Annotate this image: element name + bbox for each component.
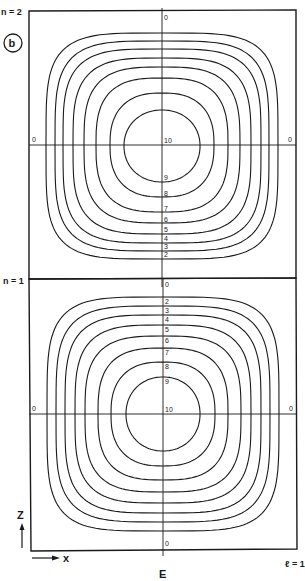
mode-label-n1: n = 1	[3, 276, 24, 286]
lower-top-zero-label: 0	[165, 281, 169, 288]
x-arrow-head-icon	[52, 556, 60, 561]
contour-label-level-3: 3	[165, 307, 169, 314]
lower-left-zero-label: 0	[32, 405, 36, 412]
upper-right-zero-label: 0	[288, 136, 292, 143]
upper-cell-contour-labels: 98765432	[164, 174, 168, 258]
upper-center-label: 10	[164, 137, 172, 144]
contour-label-level-2: 2	[164, 251, 168, 258]
contour-label-level-2: 2	[165, 298, 169, 305]
upper-left-zero-label: 0	[32, 136, 36, 143]
z-arrow-head-icon	[20, 523, 25, 530]
lower-cell-contour-labels: 98765432	[165, 298, 169, 385]
panel-label: b	[4, 34, 22, 52]
lower-center-label: 10	[165, 406, 173, 413]
x-axis-label: x	[63, 552, 70, 564]
contour-label-level-5: 5	[164, 226, 168, 233]
contour-label-level-8: 8	[164, 190, 168, 197]
contour-label-level-5: 5	[165, 326, 169, 333]
contour-label-level-9: 9	[165, 378, 169, 385]
contour-label-level-7: 7	[164, 205, 168, 212]
contour-label-level-8: 8	[165, 363, 169, 370]
mode-label-n2: n = 2	[1, 7, 22, 17]
contour-label-level-4: 4	[165, 316, 169, 323]
contour-diagram: 98765432 98765432 0 0 0 10 0 0 0 10 0 n …	[0, 0, 305, 581]
contour-label-level-4: 4	[164, 235, 168, 242]
lower-bottom-zero-label: 0	[165, 540, 169, 547]
upper-cell-frame	[29, 10, 296, 279]
contour-label-level-7: 7	[165, 349, 169, 356]
contour-label-level-9: 9	[164, 174, 168, 181]
axis-indicator: Z x	[17, 509, 70, 564]
upper-top-zero-label: 0	[164, 14, 168, 21]
contour-label-level-6: 6	[164, 216, 168, 223]
z-axis-label: Z	[17, 509, 24, 521]
panel-label-text: b	[9, 37, 16, 49]
contour-figure: 98765432 98765432 0 0 0 10 0 0 0 10 0 n …	[0, 0, 305, 581]
contour-label-level-3: 3	[164, 243, 168, 250]
contour-label-level-6: 6	[165, 337, 169, 344]
figure-caption: E	[159, 568, 166, 580]
mode-label-l1: ℓ = 1	[285, 559, 305, 569]
lower-right-zero-label: 0	[289, 405, 293, 412]
